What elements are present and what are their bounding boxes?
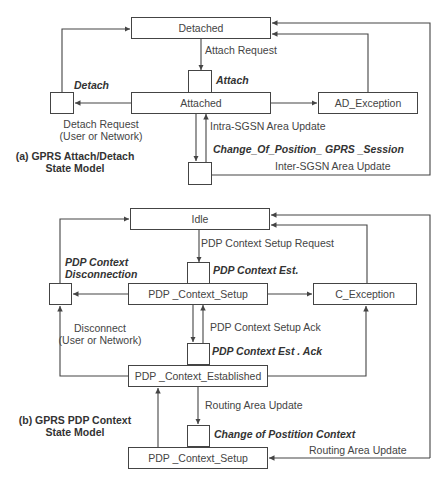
caption-b-line1: (b) GPRS PDP Context bbox=[10, 414, 140, 426]
pseudo-state-detach bbox=[50, 92, 74, 114]
state-c-exception: C_Exception bbox=[313, 283, 417, 305]
label-intra-sgsn: Intra-SGSN Area Update bbox=[210, 120, 326, 132]
pseudo-state-context-est-ack bbox=[187, 343, 210, 365]
state-attached: Attached bbox=[131, 92, 271, 114]
label-disconnect: Disconnect (User or Network) bbox=[55, 322, 145, 346]
state-detached: Detached bbox=[131, 17, 271, 39]
label-disconnection-line2: Disconnection bbox=[65, 268, 137, 280]
caption-b-line2: State Model bbox=[10, 426, 140, 438]
caption-a: (a) GPRS Attach/Detach State Model bbox=[10, 150, 140, 174]
label-attach-request: Attach Request bbox=[205, 44, 277, 56]
label-detach-request-line1: Detach Request bbox=[56, 118, 146, 130]
label-detach-request-line2: (User or Network) bbox=[56, 130, 146, 142]
caption-a-line2: State Model bbox=[10, 162, 140, 174]
label-disconnect-line1: Disconnect bbox=[55, 322, 145, 334]
label-context-est-ack: PDP Context Est . Ack bbox=[212, 345, 322, 357]
state-idle: Idle bbox=[130, 208, 270, 230]
label-disconnection: PDP Context Disconnection bbox=[65, 256, 137, 280]
pseudo-state-disconnection bbox=[49, 283, 72, 305]
label-disconnection-line1: PDP Context bbox=[65, 256, 137, 268]
state-pdp-context-established: PDP _Context_Established bbox=[128, 365, 268, 387]
pseudo-state-attach bbox=[188, 70, 212, 93]
label-detach: Detach bbox=[74, 79, 109, 91]
label-setup-ack: PDP Context Setup Ack bbox=[210, 321, 321, 333]
label-change-of-position-context: Change of Postition Context bbox=[214, 428, 355, 440]
label-disconnect-line2: (User or Network) bbox=[55, 334, 145, 346]
state-pdp-context-setup-bottom: PDP _Context_Setup bbox=[128, 447, 268, 469]
caption-a-line1: (a) GPRS Attach/Detach bbox=[10, 150, 140, 162]
state-pdp-context-setup: PDP _Context_Setup bbox=[128, 283, 268, 305]
label-inter-sgsn: Inter-SGSN Area Update bbox=[275, 160, 391, 172]
label-routing-area-update: Routing Area Update bbox=[205, 399, 302, 411]
label-setup-request: PDP Context Setup Request bbox=[201, 237, 334, 249]
pseudo-state-change-of-position bbox=[188, 162, 212, 185]
state-ad-exception: AD_Exception bbox=[318, 92, 418, 114]
label-detach-request: Detach Request (User or Network) bbox=[56, 118, 146, 142]
label-attach: Attach bbox=[216, 74, 249, 86]
label-context-est: PDP Context Est. bbox=[213, 264, 298, 276]
pseudo-state-context-est bbox=[187, 262, 210, 284]
label-change-of-position: Change_Of_Position_ GPRS _Session bbox=[213, 143, 404, 155]
caption-b: (b) GPRS PDP Context State Model bbox=[10, 414, 140, 438]
pseudo-state-change-of-position-context bbox=[187, 425, 210, 447]
label-routing-area-update-right: Routing Area Update bbox=[309, 444, 406, 456]
